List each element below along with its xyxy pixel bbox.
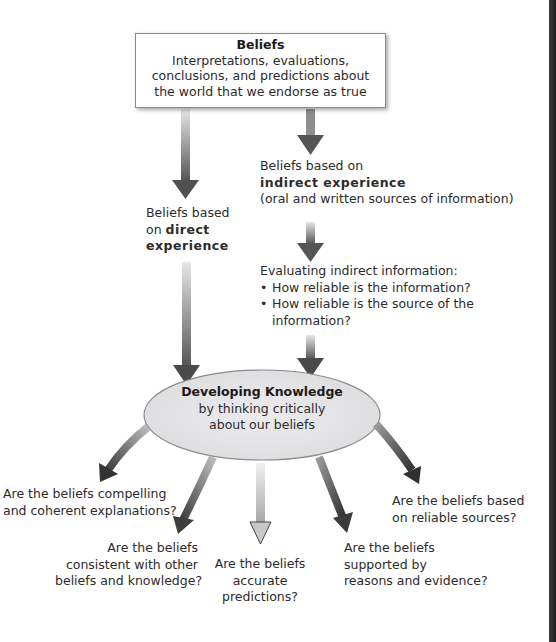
knowledge-line1: by thinking critically [144,401,380,418]
arrow-to-evaluation [297,222,324,262]
indirect-line2: indirect experience [260,175,514,192]
evaluation-heading: Evaluating indirect information: [260,263,474,280]
question-line: reasons and evidence? [344,573,488,590]
evaluation-bullet: How reliable is the source of the [260,296,474,313]
arrow-to-direct-experience [172,109,199,199]
question-line: predictions? [210,589,310,606]
question-line: beliefs and knowledge? [55,573,198,590]
direct-line2: on direct [146,222,230,239]
question-compelling: Are the beliefs compelling and coherent … [3,486,177,519]
arrow-to-supported-question [319,457,353,533]
knowledge-label: Developing Knowledge by thinking critica… [144,384,380,434]
arrow-direct-to-knowledge [173,262,200,385]
direct-line3: experience [146,238,230,255]
indirect-line1: Beliefs based on [260,158,514,175]
question-reliable-sources: Are the beliefs based on reliable source… [392,493,524,526]
evaluation-bullets: How reliable is the information? How rel… [260,280,474,313]
direct-prefix: on [146,222,166,237]
question-supported: Are the beliefs supported by reasons and… [344,540,488,590]
direct-line1: Beliefs based [146,205,230,222]
question-line: Are the beliefs [344,540,488,557]
question-accurate: Are the beliefs accurate predictions? [210,556,310,606]
beliefs-title: Beliefs [136,37,385,53]
direct-bold: direct [166,222,210,237]
question-line: supported by [344,557,488,574]
evaluation-block: Evaluating indirect information: How rel… [260,263,474,329]
arrow-evaluation-to-knowledge [297,335,324,378]
question-line: and coherent explanations? [3,503,177,520]
knowledge-line2: about our beliefs [144,417,380,434]
evaluation-bullet: How reliable is the information? [260,280,474,297]
beliefs-desc-line: the world that we endorse as true [136,84,385,100]
arrow-to-compelling-question [99,427,148,482]
evaluation-continuation: information? [260,313,474,330]
arrow-to-indirect-experience [297,109,324,155]
direct-experience-label: Beliefs based on direct experience [146,205,230,255]
arrow-to-accurate-question [250,463,271,544]
arrow-to-reliable-sources-question [376,424,421,484]
question-line: Are the beliefs [55,540,198,557]
indirect-line3: (oral and written sources of information… [260,191,514,208]
question-consistent: Are the beliefs consistent with other be… [55,540,198,590]
question-line: Are the beliefs based [392,493,524,510]
knowledge-title: Developing Knowledge [144,384,380,401]
question-line: accurate [210,573,310,590]
beliefs-box: Beliefs Interpretations, evaluations, co… [135,33,386,108]
question-line: consistent with other [55,557,198,574]
question-line: Are the beliefs [210,556,310,573]
question-line: on reliable sources? [392,510,524,527]
beliefs-desc-line: Interpretations, evaluations, [136,53,385,69]
right-edge-bar [549,0,556,642]
indirect-experience-label: Beliefs based on indirect experience (or… [260,158,514,208]
question-line: Are the beliefs compelling [3,486,177,503]
beliefs-desc-line: conclusions, and predictions about [136,68,385,84]
arrow-to-consistent-question [173,457,213,534]
